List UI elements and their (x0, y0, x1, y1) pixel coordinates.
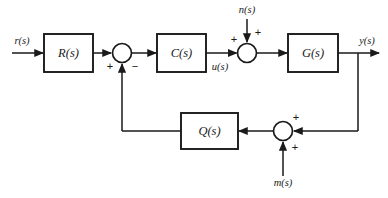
block-Q-label: Q(s) (198, 124, 220, 138)
summing-junction-3 (274, 122, 293, 141)
summing-junction-2 (238, 44, 257, 63)
signal-label-r: r(s) (14, 35, 30, 47)
summing-junction-1 (113, 44, 132, 63)
block-diagram-svg: R(s) C(s) G(s) Q(s) r(s) u(s) n(s) y(s) … (0, 0, 388, 198)
block-G-label: G(s) (302, 46, 324, 60)
signal-label-u: u(s) (212, 61, 229, 73)
block-diagram-canvas: R(s) C(s) G(s) Q(s) r(s) u(s) n(s) y(s) … (0, 0, 388, 198)
signal-label-y: y(s) (358, 35, 375, 47)
sign-sum2-plus-left: + (231, 33, 237, 45)
block-C-label: C(s) (171, 46, 193, 60)
sign-sum2-plus-top: + (255, 26, 261, 38)
block-R-label: R(s) (57, 46, 79, 60)
sign-sum3-plus-bottom: + (292, 141, 298, 153)
sign-sum1-minus: − (132, 60, 138, 72)
signal-label-m: m(s) (274, 177, 293, 189)
signal-label-n: n(s) (239, 4, 256, 16)
sign-sum1-plus: + (107, 60, 113, 72)
sign-sum3-plus-right: + (293, 111, 299, 123)
